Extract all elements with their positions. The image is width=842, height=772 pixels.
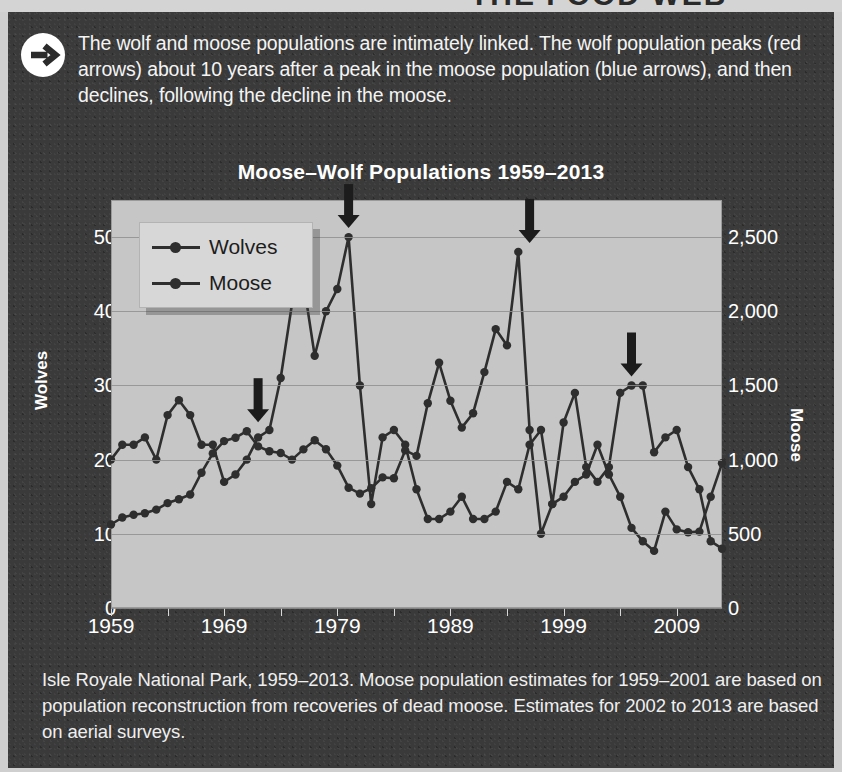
x-tick-label: 1959 [88,614,135,638]
dark-figure-panel: The wolf and moose populations are intim… [8,12,834,768]
y-tick-label-right: 2,500 [728,226,778,249]
callout-text: The wolf and moose populations are intim… [78,30,820,108]
line-dot-marker-icon [152,276,200,290]
x-tick-mark [564,608,565,616]
x-tick-mark [168,608,169,616]
x-tick-mark [450,608,451,616]
y-axis-title-right: Moose [786,408,806,462]
y-tick-label-right: 2,000 [728,300,778,323]
peak-arrow-icon [338,184,360,228]
x-tick-mark [394,608,395,616]
legend-label: Moose [209,271,272,295]
plot-area: Wolves Moose [111,200,722,608]
chart: Wolves Moose 01020304050 05001,0001,5002… [22,190,822,650]
y-axis-title-left: Wolves [32,351,52,410]
x-tick-mark [111,608,112,616]
x-tick-mark [224,608,225,616]
peak-arrow-icon [519,199,541,243]
x-tick-mark [337,608,338,616]
x-tick-label: 1989 [427,614,474,638]
x-tick-label: 2009 [653,614,700,638]
y-tick-label-right: 1,000 [728,448,778,471]
legend-label: Wolves [209,235,277,259]
gridline [111,608,722,609]
arrow-right-circle-icon [20,32,66,78]
x-tick-mark [677,608,678,616]
x-tick-mark [507,608,508,616]
peak-arrow-icon [247,378,269,422]
legend-item-wolves: Wolves [152,235,277,259]
line-dot-marker-icon [152,240,200,254]
figure-page: THE FOOD WEB The wolf and moose populati… [0,0,842,772]
legend-item-moose: Moose [152,271,272,295]
x-tick-label: 1999 [540,614,587,638]
clipped-headline-text: THE FOOD WEB [470,0,727,12]
peak-arrow-icon [621,333,643,377]
callout: The wolf and moose populations are intim… [20,30,820,108]
x-tick-label: 1979 [314,614,361,638]
x-tick-mark [281,608,282,616]
figure-caption: Isle Royale National Park, 1959–2013. Mo… [42,667,822,745]
legend: Wolves Moose [139,222,313,308]
clipped-headline-strip: THE FOOD WEB [0,0,842,12]
chart-title: Moose–Wolf Populations 1959–2013 [8,160,834,184]
x-tick-mark [620,608,621,616]
y-tick-label-right: 500 [728,522,761,545]
x-tick-label: 1969 [201,614,248,638]
y-tick-label-right: 1,500 [728,374,778,397]
y-tick-label-right: 0 [728,597,739,620]
